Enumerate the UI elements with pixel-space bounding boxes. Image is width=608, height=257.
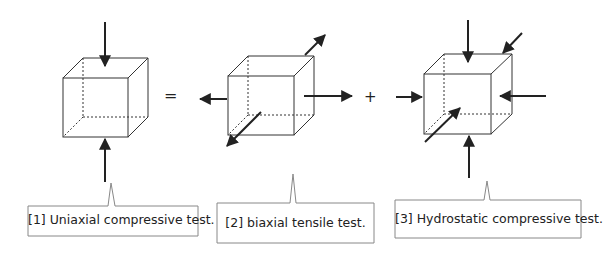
callout-box-3 [395,181,581,238]
callout-label-3: [3] Hydrostatic compressive test. [395,211,581,226]
equals-symbol: = [164,86,177,105]
callout-label-1: [1] Uniaxial compressive test. [28,212,198,227]
callout-label-2: [2] biaxial tensile test. [217,215,374,230]
cube-uniaxial [63,58,148,137]
arrows-hydrostatic [396,20,546,178]
cube-hydrostatic [424,54,512,134]
callout-box-1 [28,183,198,236]
plus-symbol: + [364,88,377,106]
arrows-biaxial [200,35,352,146]
cube-biaxial [228,56,314,135]
callout-box-2 [217,174,374,243]
